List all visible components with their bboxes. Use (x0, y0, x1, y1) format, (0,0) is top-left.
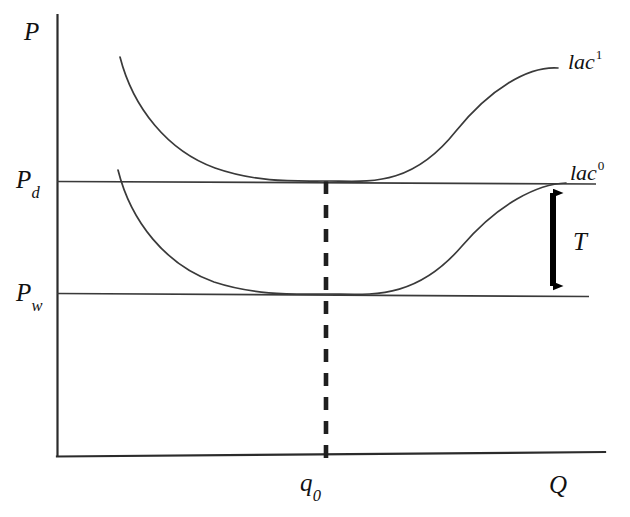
diagram-canvas (0, 0, 630, 517)
q0-label: q0 (300, 469, 321, 502)
lac1-curve (120, 57, 558, 181)
lac0-curve (118, 170, 566, 294)
q0-label-base: q (300, 469, 313, 496)
lac1-label: lac1 (568, 49, 601, 75)
economics-diagram: P Pd Pw Q q0 lac1 lac0 T (0, 0, 630, 517)
lac0-label: lac0 (570, 160, 603, 186)
lac0-label-base: lac (570, 160, 597, 185)
tariff-label: T (573, 228, 587, 256)
quantity-axis-line (57, 452, 605, 457)
pd-label-subscript: d (32, 183, 40, 202)
lac1-label-superscript: 1 (596, 47, 603, 62)
price-axis-label: P (24, 18, 39, 46)
lac1-label-base: lac (568, 49, 595, 74)
quantity-axis-label: Q (549, 471, 567, 499)
pw-label-base: P (16, 279, 31, 306)
pw-label-subscript: w (32, 296, 43, 315)
q0-label-subscript: 0 (313, 486, 321, 505)
pd-label-base: P (16, 166, 31, 193)
pd-label: Pd (16, 166, 40, 199)
lac0-label-superscript: 0 (598, 158, 605, 173)
pw-label: Pw (16, 279, 42, 312)
